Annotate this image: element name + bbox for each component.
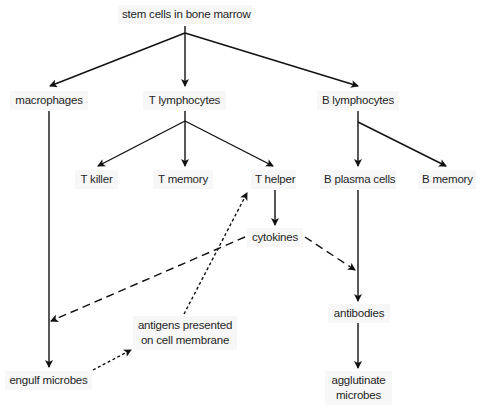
node-t-memory: T memory bbox=[153, 170, 213, 189]
node-label: T lymphocytes bbox=[147, 93, 222, 108]
node-t-killer: T killer bbox=[75, 170, 118, 189]
node-t-helper: T helper bbox=[251, 170, 296, 189]
node-label-line1: agglutinate bbox=[329, 373, 388, 388]
node-label-line2: on cell membrane bbox=[137, 333, 233, 348]
node-t-lymphocytes: T lymphocytes bbox=[143, 91, 226, 110]
node-label-line1: antigens presented bbox=[137, 318, 233, 333]
node-label: T memory bbox=[157, 172, 209, 187]
node-label: T helper bbox=[255, 172, 292, 187]
node-label: B lymphocytes bbox=[321, 93, 395, 108]
arrow-stem-to-b-lymphocytes bbox=[185, 33, 358, 86]
arrow-b-to-memory bbox=[358, 122, 446, 166]
node-antibodies: antibodies bbox=[328, 304, 390, 323]
node-label: macrophages bbox=[14, 93, 84, 108]
node-label: cytokines bbox=[251, 230, 299, 245]
node-agglutinate-microbes: agglutinate microbes bbox=[325, 371, 392, 405]
node-macrophages: macrophages bbox=[10, 91, 88, 110]
node-label: antibodies bbox=[332, 306, 386, 321]
arrow-t-to-helper bbox=[185, 121, 273, 166]
node-label: B plasma cells bbox=[324, 172, 392, 187]
arrow-stem-to-macrophages bbox=[50, 33, 185, 86]
node-b-lymphocytes: B lymphocytes bbox=[317, 91, 399, 110]
node-b-memory: B memory bbox=[418, 170, 476, 189]
node-label: engulf microbes bbox=[9, 373, 88, 388]
node-label: B memory bbox=[422, 172, 472, 187]
dashed-arrow-cytokines-to-macrophages bbox=[51, 237, 245, 321]
node-label: T killer bbox=[79, 172, 114, 187]
dashed-arrow-cytokines-to-plasma bbox=[305, 237, 355, 270]
node-engulf-microbes: engulf microbes bbox=[5, 371, 92, 390]
node-cytokines: cytokines bbox=[247, 228, 303, 247]
node-label: stem cells in bone marrow bbox=[122, 7, 248, 22]
node-antigens-presented: antigens presented on cell membrane bbox=[133, 316, 237, 350]
arrow-t-to-killer bbox=[98, 121, 185, 166]
dotted-arrow-antigens-to-helper bbox=[184, 193, 247, 314]
node-b-plasma-cells: B plasma cells bbox=[320, 170, 396, 189]
node-stem-cells: stem cells in bone marrow bbox=[118, 5, 252, 24]
node-label-line2: microbes bbox=[329, 388, 388, 403]
dotted-arrow-engulf-to-antigens bbox=[93, 350, 131, 370]
